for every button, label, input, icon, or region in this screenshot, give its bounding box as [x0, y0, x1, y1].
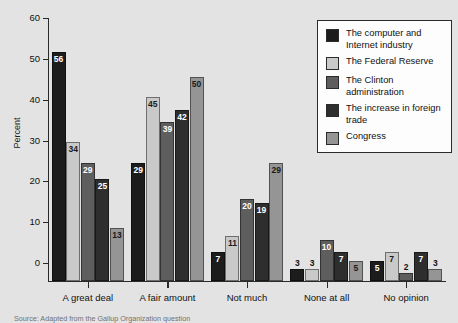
- bar: 25: [95, 179, 109, 281]
- x-tick-mark: [247, 282, 248, 288]
- legend-swatch-icon: [326, 132, 339, 145]
- y-tick-label: 20: [14, 176, 40, 186]
- legend-label: Congress: [346, 131, 386, 143]
- chart-legend: The computer and Internet industryThe Fe…: [317, 20, 452, 153]
- bar: 20: [240, 199, 254, 281]
- legend-item: The computer and Internet industry: [326, 28, 445, 51]
- y-tick-label: 10: [14, 217, 40, 227]
- bar-value-label: 25: [96, 182, 108, 191]
- x-category-label: A fair amount: [122, 292, 212, 303]
- bar: 45: [146, 97, 160, 281]
- bar: 3: [305, 269, 319, 281]
- y-tick-label: 50: [14, 54, 40, 64]
- legend-label: The computer and Internet industry: [346, 28, 445, 51]
- legend-swatch-icon: [326, 76, 339, 89]
- bar-chart: Percent 0102030405060 563429251329453942…: [0, 0, 458, 323]
- bar-value-label: 7: [386, 255, 398, 264]
- bar: 13: [110, 228, 124, 281]
- y-tick-label: 0: [14, 258, 40, 268]
- legend-item: The increase in foreign trade: [326, 103, 445, 126]
- bar: 34: [66, 142, 80, 281]
- bar-value-label: 10: [321, 243, 333, 252]
- bar-value-label: 7: [335, 255, 347, 264]
- bar-value-label: 56: [53, 55, 65, 64]
- bar-value-label: 13: [111, 231, 123, 240]
- bar-value-label: 50: [191, 80, 203, 89]
- x-tick-mark: [167, 282, 168, 288]
- bar: 11: [225, 236, 239, 281]
- bar-value-label: 29: [82, 166, 94, 175]
- x-tick-mark: [406, 282, 407, 288]
- bar-value-label: 5: [371, 264, 383, 273]
- legend-item: The Clinton administration: [326, 75, 445, 98]
- bar-value-label: 3: [429, 259, 441, 268]
- source-note: Source: Adapted from the Gallup Organiza…: [14, 314, 190, 323]
- bar-value-label: 11: [226, 239, 238, 248]
- legend-item: Congress: [326, 131, 445, 145]
- bar-value-label: 45: [147, 100, 159, 109]
- bar: 39: [160, 122, 174, 281]
- legend-item: The Federal Reserve: [326, 56, 445, 70]
- bar-value-label: 7: [212, 255, 224, 264]
- bar: 10: [320, 240, 334, 281]
- x-category-label: A great deal: [43, 292, 133, 303]
- y-tick-label: 40: [14, 95, 40, 105]
- bar-value-label: 7: [415, 255, 427, 264]
- bar-value-label: 2: [400, 263, 412, 272]
- bar: 2: [399, 273, 413, 281]
- bar: 3: [428, 269, 442, 281]
- legend-label: The Clinton administration: [346, 75, 445, 98]
- x-tick-mark: [88, 282, 89, 288]
- bar: 5: [370, 261, 384, 281]
- legend-swatch-icon: [326, 104, 339, 117]
- y-tick-label: 30: [14, 136, 40, 146]
- bar: 19: [255, 203, 269, 281]
- bar: 3: [290, 269, 304, 281]
- bar: 29: [131, 163, 145, 281]
- x-category-label: None at all: [282, 292, 372, 303]
- bar-value-label: 19: [256, 206, 268, 215]
- bar: 7: [385, 252, 399, 281]
- bar-value-label: 29: [270, 166, 282, 175]
- x-category-label: Not much: [202, 292, 292, 303]
- bar: 7: [211, 252, 225, 281]
- bar: 42: [175, 110, 189, 282]
- bar-value-label: 3: [306, 259, 318, 268]
- legend-label: The Federal Reserve: [346, 56, 433, 68]
- x-category-label: No opinion: [361, 292, 451, 303]
- bar-value-label: 29: [132, 166, 144, 175]
- bar-value-label: 5: [350, 264, 362, 273]
- legend-label: The increase in foreign trade: [346, 103, 445, 126]
- bar: 29: [269, 163, 283, 281]
- x-tick-mark: [327, 282, 328, 288]
- bar: 7: [414, 252, 428, 281]
- bar-value-label: 42: [176, 113, 188, 122]
- bar: 50: [190, 77, 204, 281]
- legend-swatch-icon: [326, 29, 339, 42]
- bar-value-label: 3: [291, 259, 303, 268]
- legend-swatch-icon: [326, 57, 339, 70]
- bar-value-label: 39: [161, 125, 173, 134]
- bar: 5: [349, 261, 363, 281]
- bar: 29: [81, 163, 95, 281]
- y-tick-label: 60: [14, 13, 40, 23]
- bar-value-label: 20: [241, 202, 253, 211]
- bar-value-label: 34: [67, 145, 79, 154]
- bar: 7: [334, 252, 348, 281]
- bar: 56: [52, 52, 66, 281]
